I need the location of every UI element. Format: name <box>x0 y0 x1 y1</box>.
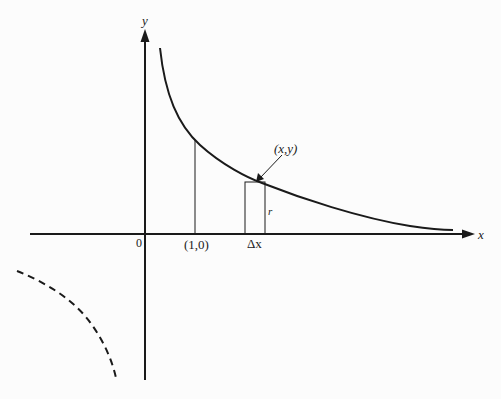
delta-x-label: Δx <box>247 237 262 250</box>
y-axis-label: y <box>142 14 148 27</box>
point-xy-label: (x,y) <box>274 142 297 155</box>
dashed-curve <box>17 271 116 378</box>
point-one-label: (1,0) <box>184 238 209 251</box>
delta-x-rectangle <box>245 182 265 234</box>
point-arrow-line <box>260 155 282 178</box>
x-axis-arrow-icon <box>462 230 475 239</box>
diagram-svg <box>0 0 501 399</box>
x-axis-label: x <box>478 228 484 241</box>
radius-label: r <box>268 206 272 217</box>
solid-curve <box>160 48 453 230</box>
origin-label: 0 <box>136 237 142 249</box>
y-axis-arrow-icon <box>141 29 150 42</box>
diagram-canvas: y x 0 (1,0) Δx r (x,y) <box>0 0 501 399</box>
